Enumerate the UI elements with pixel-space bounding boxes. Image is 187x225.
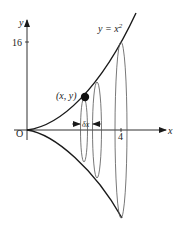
y-axis-label: y xyxy=(18,17,24,28)
upper-curve xyxy=(27,13,136,130)
curve-label-exponent: 2 xyxy=(119,22,123,30)
lower-curve xyxy=(27,130,122,218)
x-tick-label: 4 xyxy=(118,131,123,142)
origin-label: O xyxy=(16,128,23,139)
strip-width-label: δx xyxy=(82,120,90,129)
curve-label-base: y = x xyxy=(97,23,119,34)
y-tick-label: 16 xyxy=(12,37,22,48)
point-label: (x, y) xyxy=(56,90,77,102)
curve-label: y = x2 xyxy=(97,22,123,34)
x-axis-label: x xyxy=(167,125,173,136)
point-marker xyxy=(81,93,89,101)
volume-of-revolution-diagram: y x O 16 4 (x, y) y = x2 δx xyxy=(0,0,187,225)
